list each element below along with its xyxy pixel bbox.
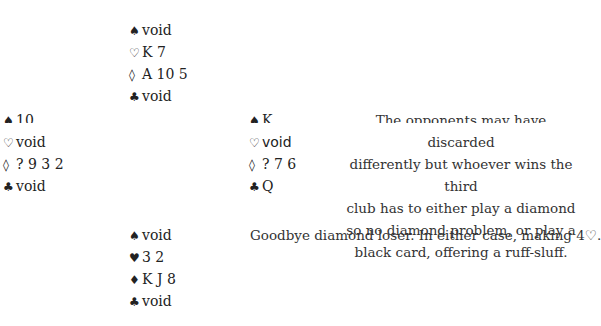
- scroll-clip-strip: [0, 123, 584, 130]
- north-diamonds-cards: A 10 5: [142, 66, 188, 82]
- east-clubs-cards: Q: [262, 178, 273, 194]
- diamond-outline-icon: ◊: [3, 154, 16, 176]
- north-clubs: ♣void: [129, 85, 188, 107]
- west-clubs-cards: void: [16, 178, 46, 194]
- east-clubs: ♣Q: [249, 175, 296, 197]
- club-icon: ♣: [129, 86, 142, 108]
- club-icon: ♣: [249, 176, 262, 198]
- west-hearts: ♡void: [3, 131, 64, 153]
- south-diamonds: ♦K J 8: [129, 268, 176, 290]
- heart-outline-icon: ♡: [3, 132, 16, 154]
- commentary-line: club has to either play a diamond: [342, 197, 580, 219]
- south-spades: ♠void: [129, 224, 176, 246]
- commentary-line: black card, offering a ruff-sluff.: [342, 241, 580, 263]
- north-spades-cards: void: [142, 22, 172, 38]
- club-icon: ♣: [3, 176, 16, 198]
- east-diamonds: ◊? 7 6: [249, 153, 296, 175]
- north-clubs-cards: void: [142, 88, 172, 104]
- south-spades-cards: void: [142, 227, 172, 243]
- north-spades: ♠void: [129, 19, 188, 41]
- south-hearts: ♥3 2: [129, 246, 176, 268]
- heart-outline-icon: ♡: [249, 132, 262, 154]
- conclusion-text: Goodbye diamond loser. In either case, m…: [250, 227, 601, 243]
- commentary-line: The opponents may have discarded: [342, 109, 580, 153]
- diamond-filled-icon: ♦: [129, 269, 142, 291]
- heart-filled-icon: ♥: [129, 247, 142, 269]
- east-hearts-cards: void: [262, 134, 292, 150]
- north-hand: ♠void ♡K 7 ◊A 10 5 ♣void: [129, 19, 188, 107]
- south-hearts-cards: 3 2: [142, 249, 164, 265]
- south-clubs-cards: void: [142, 293, 172, 309]
- south-clubs: ♣void: [129, 290, 176, 312]
- diamond-outline-icon: ◊: [129, 64, 142, 86]
- north-diamonds: ◊A 10 5: [129, 63, 188, 85]
- south-hand: ♠void ♥3 2 ♦K J 8 ♣void: [129, 224, 176, 312]
- spade-icon: ♠: [129, 20, 142, 42]
- commentary-line: differently but whoever wins the third: [342, 153, 580, 197]
- north-hearts: ♡K 7: [129, 41, 188, 63]
- diamond-outline-icon: ◊: [249, 154, 262, 176]
- west-diamonds: ◊? 9 3 2: [3, 153, 64, 175]
- club-icon: ♣: [129, 291, 142, 313]
- west-diamonds-cards: ? 9 3 2: [16, 156, 64, 172]
- east-diamonds-cards: ? 7 6: [262, 156, 296, 172]
- south-diamonds-cards: K J 8: [142, 271, 176, 287]
- west-clubs: ♣void: [3, 175, 64, 197]
- east-hearts: ♡void: [249, 131, 296, 153]
- heart-outline-icon: ♡: [129, 42, 142, 64]
- spade-icon: ♠: [129, 225, 142, 247]
- north-hearts-cards: K 7: [142, 44, 166, 60]
- west-hearts-cards: void: [16, 134, 46, 150]
